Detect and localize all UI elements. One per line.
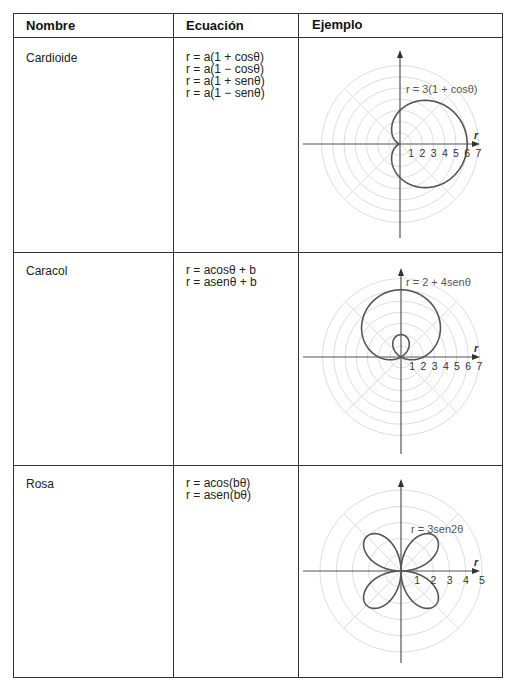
- equations-caracol: r = acosθ + b r = asenθ + b: [186, 264, 257, 288]
- row-name-rosa: Rosa: [26, 477, 54, 491]
- arrow-up-icon: [398, 268, 404, 276]
- tick-label: 5: [479, 574, 485, 586]
- tick-label: 7: [475, 147, 481, 159]
- tick-label: 5: [454, 360, 460, 372]
- tick-label: 2: [430, 574, 436, 586]
- tick-label: 3: [432, 360, 438, 372]
- tick-label: 3: [447, 574, 453, 586]
- tick-label: 4: [463, 574, 469, 586]
- tick-label: 7: [476, 360, 482, 372]
- tick-label: 6: [464, 147, 470, 159]
- equations-rosa: r = acos(bθ) r = asen(bθ): [186, 477, 251, 501]
- tick-label: 1: [409, 360, 415, 372]
- header-ecuacion: Ecuación: [186, 18, 244, 33]
- tick-label: 1: [408, 147, 414, 159]
- equations-cardioide: r = a(1 + cosθ) r = a(1 − cosθ) r = a(1 …: [186, 51, 265, 99]
- tick-label: 2: [420, 360, 426, 372]
- axis-label-r: r: [474, 556, 479, 568]
- column-divider: [173, 14, 174, 677]
- header-nombre: Nombre: [26, 18, 75, 33]
- column-divider: [298, 14, 299, 677]
- tick-label: 4: [443, 360, 449, 372]
- tick-label: 2: [419, 147, 425, 159]
- limacon-plot: 1234567rr = 2 + 4senθ: [300, 254, 503, 464]
- header-ejemplo: Ejemplo: [312, 17, 363, 32]
- row-divider: [14, 465, 502, 466]
- header-divider: [14, 37, 502, 38]
- arrow-up-icon: [398, 479, 404, 487]
- equation: r = asenθ + b: [186, 276, 257, 288]
- row-name-caracol: Caracol: [26, 264, 67, 278]
- tick-label: 3: [431, 147, 437, 159]
- tick-label: 4: [442, 147, 448, 159]
- tick-label: 1: [414, 574, 420, 586]
- row-divider: [14, 252, 502, 253]
- equation: r = a(1 − senθ): [186, 87, 265, 99]
- row-name-cardioide: Cardioide: [26, 51, 77, 65]
- rose-plot: 12345rr = 3sen2θ: [300, 467, 503, 677]
- tick-label: 6: [465, 360, 471, 372]
- tick-label: 5: [453, 147, 459, 159]
- curve-equation-label: r = 2 + 4senθ: [406, 276, 471, 288]
- equation: r = asen(bθ): [186, 489, 251, 501]
- curve-equation-label: r = 3(1 + cosθ): [406, 83, 478, 95]
- curve-equation-label: r = 3sen2θ: [411, 523, 463, 535]
- arrow-up-icon: [397, 50, 403, 58]
- cardioid-plot: 1234567rr = 3(1 + cosθ): [300, 40, 503, 252]
